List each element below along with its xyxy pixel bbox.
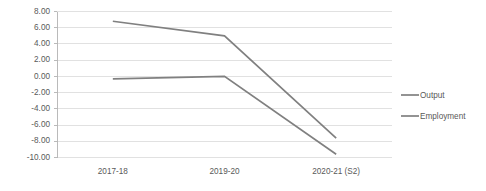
- legend-label-employment: Employment: [420, 112, 466, 121]
- y-tick-label-6: 6.00: [34, 23, 50, 32]
- y-tick-label-4: 4.00: [34, 39, 50, 48]
- y-tick-label-neg6: -6.00: [31, 120, 50, 129]
- x-tick-label-2: 2020-21 (S2): [312, 167, 360, 176]
- y-tick-label-0: 0.00: [34, 72, 50, 81]
- x-tick-label-0: 2017-18: [98, 167, 128, 176]
- legend-label-output: Output: [420, 91, 445, 100]
- chart-canvas: 8.00 6.00 4.00 2.00 0.00 -2.00 -4.00 -6.…: [0, 0, 486, 191]
- y-tick-label-neg4: -4.00: [31, 104, 50, 113]
- y-tick-label-neg8: -8.00: [31, 136, 50, 145]
- y-tick-label-neg10: -10.00: [27, 153, 51, 162]
- y-tick-label-neg2: -2.00: [31, 88, 50, 97]
- x-tick-label-1: 2019-20: [209, 167, 239, 176]
- y-tick-label-2: 2.00: [34, 55, 50, 64]
- line-chart: 8.00 6.00 4.00 2.00 0.00 -2.00 -4.00 -6.…: [0, 0, 486, 191]
- y-tick-label-8: 8.00: [34, 7, 50, 16]
